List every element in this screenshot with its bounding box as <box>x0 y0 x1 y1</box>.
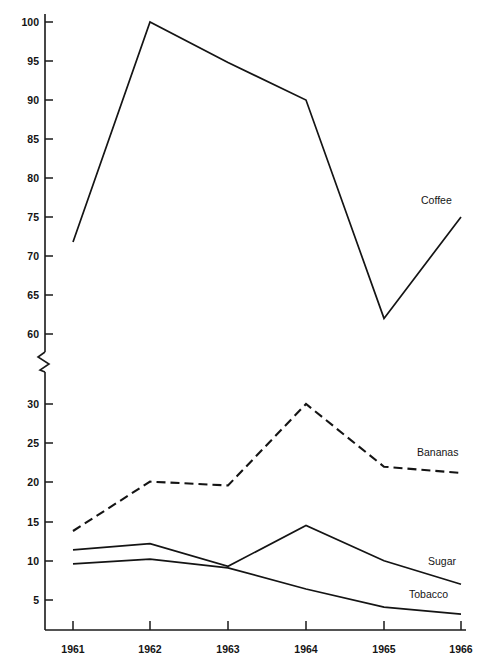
chart-canvas: 100 95 90 85 80 75 70 65 60 30 25 20 15 … <box>0 0 478 665</box>
y-axis-tick-labels: 100 95 90 85 80 75 70 65 60 30 25 20 15 … <box>21 16 39 606</box>
series-label-tobacco: Tobacco <box>409 588 448 600</box>
y-tick-label-100: 100 <box>21 16 39 28</box>
y-tick-label-75: 75 <box>27 211 39 223</box>
y-tick-label-65: 65 <box>27 289 39 301</box>
series-line-tobacco <box>73 559 461 614</box>
y-tick-label-95: 95 <box>27 55 39 67</box>
axis-group <box>38 14 466 630</box>
y-tick-label-30: 30 <box>27 398 39 410</box>
series-line-sugar <box>73 526 461 585</box>
axis-break-zigzag <box>38 352 49 372</box>
y-tick-label-90: 90 <box>27 94 39 106</box>
x-axis-ticks <box>73 621 461 630</box>
x-tick-label-1963: 1963 <box>216 643 240 655</box>
x-axis-tick-labels: 1961 1962 1963 1964 1965 1966 <box>61 643 473 655</box>
series-label-coffee: Coffee <box>421 194 452 206</box>
series-label-bananas: Bananas <box>417 446 458 458</box>
y-tick-label-60: 60 <box>27 328 39 340</box>
y-tick-label-10: 10 <box>27 555 39 567</box>
series-line-bananas <box>73 404 461 531</box>
y-tick-label-5: 5 <box>33 594 39 606</box>
y-tick-label-80: 80 <box>27 172 39 184</box>
y-axis-ticks-upper <box>45 22 53 334</box>
line-chart-figure: 100 95 90 85 80 75 70 65 60 30 25 20 15 … <box>0 0 478 665</box>
x-tick-label-1961: 1961 <box>61 643 85 655</box>
y-tick-label-85: 85 <box>27 133 39 145</box>
y-tick-label-25: 25 <box>27 437 39 449</box>
x-tick-label-1962: 1962 <box>138 643 162 655</box>
y-tick-label-70: 70 <box>27 250 39 262</box>
series-label-sugar: Sugar <box>428 555 457 567</box>
y-tick-label-15: 15 <box>27 516 39 528</box>
x-tick-label-1966: 1966 <box>449 643 473 655</box>
x-tick-label-1964: 1964 <box>294 643 318 655</box>
y-tick-label-20: 20 <box>27 476 39 488</box>
x-tick-label-1965: 1965 <box>372 643 396 655</box>
y-axis-ticks-lower <box>45 404 53 600</box>
series-group <box>73 22 461 614</box>
series-labels: Coffee Bananas Sugar Tobacco <box>409 194 458 600</box>
series-line-coffee <box>73 22 461 318</box>
